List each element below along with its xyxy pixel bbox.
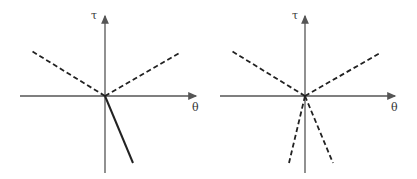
dashed-line-upper-right <box>105 52 181 96</box>
tau-label: τ <box>91 9 97 22</box>
left-panel: τ θ <box>20 9 199 173</box>
dashed-line-upper-left <box>230 50 305 96</box>
tau-label: τ <box>292 9 298 22</box>
diagram: τ θ τ θ <box>0 0 417 179</box>
dashed-line-lower-left <box>289 96 305 163</box>
dashed-line-lower-right <box>305 96 333 163</box>
theta-label: θ <box>391 101 398 114</box>
dashed-line-upper-right <box>305 53 380 96</box>
solid-line-lower <box>105 96 133 163</box>
theta-label: θ <box>192 101 199 114</box>
right-panel: τ θ <box>220 9 398 173</box>
dashed-line-upper-left <box>30 50 105 96</box>
